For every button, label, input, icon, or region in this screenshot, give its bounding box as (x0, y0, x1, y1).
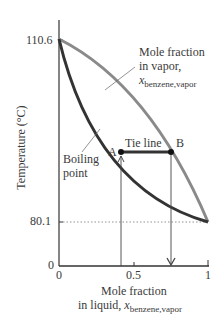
y-tick-label-0: 0 (48, 259, 54, 272)
boiling-label-line1: Boiling (63, 153, 99, 166)
point-a-label: A (108, 146, 117, 159)
vapor-leader-line (105, 67, 135, 90)
boiling-label-line2: point (63, 167, 88, 180)
x-axis-title-line2: in liquid, xbenzene,vapor (78, 299, 182, 316)
y-tick-label-110: 110.6 (26, 34, 53, 47)
boiling-curve (59, 39, 208, 222)
tie-line-label: Tie line (125, 137, 162, 150)
vapor-subscript: benzene,vapor (144, 79, 196, 89)
point-a (118, 149, 124, 155)
vapor-label-line2: in vapor, (139, 60, 181, 73)
x-axis-subscript: benzene,vapor (130, 304, 182, 314)
x-axis-title-prefix: in liquid, (78, 298, 124, 312)
y-tick-label-80: 80.1 (30, 215, 51, 228)
boiling-leader-line (82, 129, 100, 152)
x-tick-label-05: 0.5 (126, 269, 141, 282)
y-axis-title: Temperature (°C) (14, 93, 29, 203)
vapor-label-line1: Mole fraction (139, 46, 205, 59)
point-b (168, 149, 174, 155)
x-axis-title-line1: Mole fraction (101, 285, 167, 298)
point-b-label: B (176, 137, 184, 150)
x-tick-label-0: 0 (56, 269, 62, 282)
vapor-curve (59, 39, 208, 222)
x-tick-label-1: 1 (205, 269, 211, 282)
vapor-label-line3: xbenzene,vapor (139, 74, 197, 91)
